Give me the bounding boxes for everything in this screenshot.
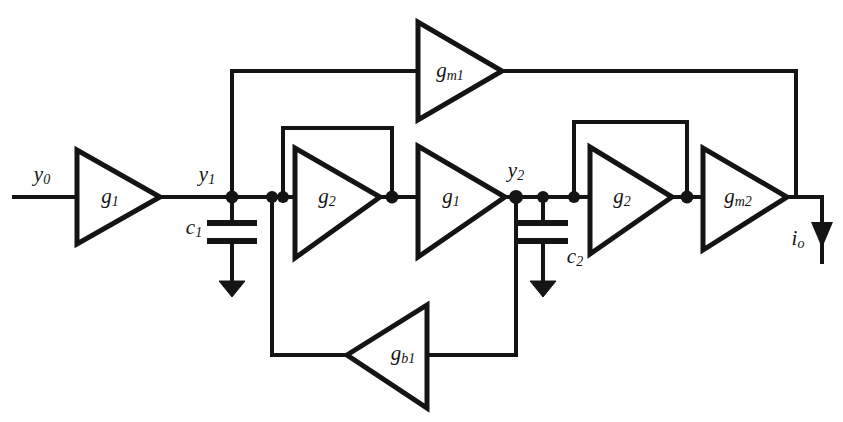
gb1-sub: b1: [401, 351, 415, 366]
capacitor-c1: c1: [186, 197, 257, 297]
amplifier-gb1: gb1: [347, 305, 427, 408]
c2-sub: 2: [576, 254, 583, 269]
node-dot-g2a-output: [386, 191, 399, 204]
node-dot-g2b-output: [681, 191, 694, 204]
amplifier-gm1: gm1: [418, 22, 502, 120]
y2-base: y: [506, 158, 518, 182]
amplifier-g1-second-triangle: [418, 146, 505, 257]
amplifier-g2-first: g2: [295, 148, 380, 258]
output-current-io: io: [792, 197, 833, 262]
y0-base: y: [32, 162, 44, 186]
g2-first-sub: 2: [329, 194, 336, 209]
c1-sub: 1: [195, 225, 202, 240]
amplifier-g2-second-triangle: [590, 147, 672, 254]
amplifier-g1-second: g1: [418, 146, 505, 257]
signal-label-y1: y1: [197, 162, 215, 187]
amplifier-gm2: gm2: [703, 148, 787, 250]
g1-input-sub: 1: [112, 194, 119, 209]
y1-sub: 1: [208, 172, 215, 187]
g2-first-base: g: [318, 184, 329, 208]
g1-second-sub: 1: [453, 194, 460, 209]
capacitor-c2: c2: [518, 197, 583, 297]
amplifier-g2-first-triangle: [295, 148, 380, 258]
node-dot-g2b-feedback-in: [568, 191, 580, 203]
g1-second-base: g: [442, 184, 453, 208]
g2-second-base: g: [613, 184, 624, 208]
signal-label-y2: y2: [506, 158, 524, 183]
node-dot-gb1-return: [266, 191, 278, 203]
y2-sub: 2: [517, 168, 524, 183]
io-sub: o: [797, 236, 804, 251]
node-dot-y2: [509, 190, 523, 204]
gm1-sub: m1: [447, 68, 464, 83]
capacitor-c1-label: c1: [186, 215, 202, 240]
amplifier-g2-second: g2: [590, 147, 672, 254]
g1-input-base: g: [101, 184, 112, 208]
node-dot-g2a-feedback-in: [277, 191, 289, 203]
circuit-canvas: c1 c2 g1 g2 g1 g2: [0, 0, 843, 422]
ground-symbol-c2: [530, 281, 556, 297]
y1-base: y: [197, 162, 209, 186]
gm1-base: g: [436, 58, 447, 82]
io-arrowhead: [811, 222, 833, 248]
capacitor-c2-label: c2: [567, 244, 583, 269]
y0-sub: 0: [43, 172, 50, 187]
gm2-base: g: [724, 184, 735, 208]
gb1-base: g: [391, 341, 402, 365]
output-current-io-label: io: [792, 226, 805, 251]
ground-symbol-c1: [219, 281, 245, 297]
g2-second-sub: 2: [624, 194, 631, 209]
node-dot-y1: [226, 191, 239, 204]
circuit-diagram: c1 c2 g1 g2 g1 g2: [0, 0, 843, 422]
amplifier-g1-input: g1: [77, 150, 160, 244]
signal-label-y0: y0: [32, 162, 50, 187]
node-dot-c2-tap: [537, 191, 549, 203]
gm2-sub: m2: [735, 194, 752, 209]
